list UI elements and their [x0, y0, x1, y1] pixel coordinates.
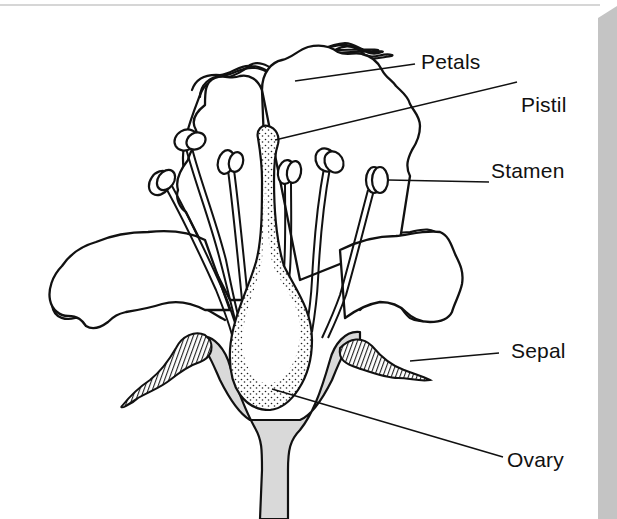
- label-stamen: Stamen: [491, 160, 565, 181]
- leader-ovary: [272, 389, 503, 457]
- petal-lower-right: [340, 231, 463, 322]
- label-sepal: Sepal: [511, 340, 566, 361]
- label-petals: Petals: [421, 51, 481, 72]
- label-ovary: Ovary: [507, 449, 564, 470]
- sepal-left: [121, 333, 211, 407]
- flower-diagram: [0, 0, 617, 519]
- label-pistil: Pistil: [521, 94, 567, 115]
- leader-sepal: [410, 353, 499, 361]
